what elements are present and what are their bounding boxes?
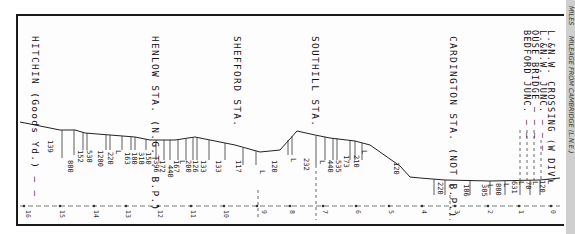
gradient-label: 440 [326, 160, 333, 173]
gradient-label: L [502, 183, 509, 187]
milepost-label: 3 [453, 210, 461, 214]
station-label-shefford: SHEFFORD STA. [232, 36, 243, 127]
gradient-label: 133 [214, 160, 221, 173]
milepost-label: 14 [92, 210, 100, 218]
milepost-label: 4 [420, 210, 428, 214]
milepost-label: 5 [387, 210, 395, 214]
miles-label: MILES [567, 6, 575, 25]
gradient-label: 172 [158, 160, 165, 173]
gradient-label: L [360, 150, 367, 154]
station-label-lnw-crossing: L.&N.W. CROSSING (W DIV) [546, 30, 556, 184]
station-label-cardington: CARDINGTON STA. (NOT B.P.) [448, 36, 459, 219]
gradient-label: L [486, 184, 493, 188]
gradient-label: L [318, 160, 325, 164]
milepost-label: 7 [321, 210, 329, 214]
gradient-label: L [289, 158, 296, 162]
gradient-label: 318 [137, 152, 144, 165]
gradient-label: 220 [106, 152, 113, 165]
milepost-label: 11 [189, 210, 197, 218]
gradient-label: L [114, 150, 121, 154]
mileage-note: MILEAGE FROM CAMBRIDGE (L.N.E.) [567, 36, 575, 154]
gradient-label: 152 [76, 150, 83, 163]
gradient-label: 150 [144, 152, 151, 165]
milepost-label: 8 [288, 210, 296, 214]
gradient-label: 220 [436, 182, 443, 195]
gradient-label: 880 [66, 160, 73, 173]
gradient-label: 117 [234, 160, 241, 173]
gradient-label: 1280 [96, 150, 103, 167]
milepost-label: 10 [222, 210, 230, 218]
gradient-label: 232 [302, 158, 309, 171]
gradient-label: 120 [270, 160, 277, 173]
gradient-label: 186 [462, 184, 469, 197]
station-label-henlow: HENLOW STA. (N.G.T. B.P.) [150, 36, 161, 212]
gradient-label: 120 [392, 162, 399, 175]
station-label-southill: SOUTHILL STA. [310, 36, 321, 127]
gradient-label: 126 [191, 160, 198, 173]
gradient-label: 173 [342, 155, 349, 168]
gradient-label: 200 [184, 160, 191, 173]
gradient-label: 133 [199, 160, 206, 173]
gradient-label: L [447, 184, 454, 188]
milepost-label: 13 [124, 210, 132, 218]
station-dashed-verticals [258, 130, 541, 220]
gradient-label: 120 [538, 180, 545, 193]
gradient-label: L [517, 181, 524, 185]
milepost-label: 0 [549, 210, 557, 214]
gradient-label: 163 [123, 152, 130, 165]
gradient-label: 210 [352, 155, 359, 168]
gradient-label: 180 [130, 152, 137, 165]
milepost-label: 6 [354, 210, 362, 214]
milepost-label: 16 [24, 210, 32, 218]
milepost-label: 1 [517, 210, 525, 214]
gradient-label: 538 [85, 150, 92, 163]
gradient-label: L [531, 181, 538, 185]
gradient-label: 631 [510, 181, 517, 194]
station-label-hitchin: HITCHIN (Goods Yd.) — — [30, 36, 41, 197]
milepost-label: 9 [260, 210, 268, 214]
milepost-label: 2 [486, 210, 494, 214]
gradient-label: 139 [46, 140, 53, 153]
milepost-label: 12 [156, 210, 164, 218]
gradient-label: 70 [524, 181, 531, 189]
gradient-label: 535 [334, 160, 341, 173]
gradient-profile-graphic [0, 0, 575, 234]
gradient-label: 880 [494, 183, 501, 196]
milepost-label: 15 [58, 210, 66, 218]
gradient-label: L [258, 170, 265, 174]
gradient-label: L [546, 180, 553, 184]
